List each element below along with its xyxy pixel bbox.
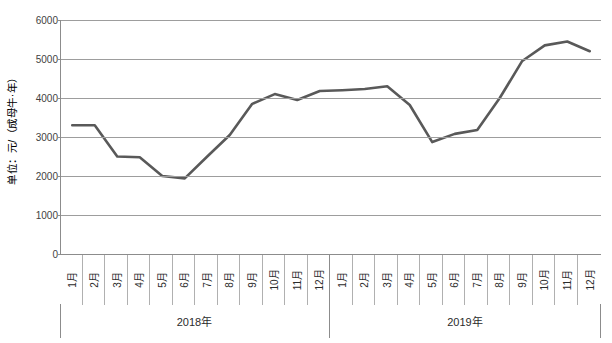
- y-axis-tick-labels: 0100020003000400050006000: [14, 0, 58, 256]
- y-tickmark-3000: [57, 137, 61, 138]
- x-axis-month-label: 9月: [513, 272, 528, 288]
- line-chart: 单位：元/（成母牛·年） 0100020003000400050006000 1…: [0, 0, 612, 343]
- series-polyline: [72, 41, 590, 178]
- gridline-6000: [61, 20, 601, 21]
- x-axis-month-label: 5月: [153, 272, 168, 288]
- x-axis-month-label: 9月: [243, 272, 258, 288]
- x-axis-month-cell: 8月: [218, 255, 241, 305]
- x-axis-month-label: 8月: [221, 272, 236, 288]
- x-axis-month-cell: 11月: [285, 255, 308, 305]
- x-axis-month-label: 7月: [198, 272, 213, 288]
- x-axis-month-cell: 7月: [195, 255, 218, 305]
- x-axis-year-label: 2019年: [330, 304, 600, 338]
- x-axis-month-label: 6月: [446, 272, 461, 288]
- x-axis-month-cell: 2月: [83, 255, 106, 305]
- x-axis-month-cell: 1月: [330, 255, 353, 305]
- x-axis-month-cell: 6月: [173, 255, 196, 305]
- y-tickmark-5000: [57, 59, 61, 60]
- x-axis-month-cell: 4月: [128, 255, 151, 305]
- x-axis-year-labels: 2018年2019年: [60, 304, 600, 338]
- y-tick-label-2000: 2000: [18, 171, 58, 182]
- x-axis-month-cell: 4月: [398, 255, 421, 305]
- x-axis-month-label: 3月: [378, 272, 393, 288]
- y-tick-label-0: 0: [18, 249, 58, 260]
- gridline-3000: [61, 137, 601, 138]
- x-axis-month-cell: 3月: [375, 255, 398, 305]
- plot-area: [60, 20, 601, 254]
- x-axis-month-cell: 6月: [443, 255, 466, 305]
- gridline-2000: [61, 176, 601, 177]
- y-tick-label-6000: 6000: [18, 15, 58, 26]
- x-axis-month-label: 7月: [468, 272, 483, 288]
- y-tick-label-4000: 4000: [18, 93, 58, 104]
- y-tickmark-4000: [57, 98, 61, 99]
- x-axis-month-cell: 5月: [150, 255, 173, 305]
- gridline-1000: [61, 215, 601, 216]
- gridline-5000: [61, 59, 601, 60]
- x-axis-month-cell: 11月: [555, 255, 578, 305]
- x-axis-month-label: 10月: [536, 269, 551, 290]
- x-axis-month-label: 1月: [333, 272, 348, 288]
- x-axis-month-cell: 9月: [510, 255, 533, 305]
- x-axis-month-cell: 2月: [353, 255, 376, 305]
- x-axis-month-cell: 1月: [60, 255, 83, 305]
- x-axis-month-label: 11月: [288, 270, 303, 290]
- x-axis-month-labels: 1月2月3月4月5月6月7月8月9月10月11月12月1月2月3月4月5月6月7…: [60, 254, 600, 305]
- x-axis-month-cell: 8月: [488, 255, 511, 305]
- x-axis-month-label: 11月: [558, 270, 573, 290]
- x-axis-month-label: 1月: [63, 272, 78, 288]
- x-axis-month-label: 6月: [176, 272, 191, 288]
- x-axis-month-label: 2月: [356, 272, 371, 288]
- y-tick-label-1000: 1000: [18, 210, 58, 221]
- y-tick-label-3000: 3000: [18, 132, 58, 143]
- x-axis-month-label: 12月: [581, 269, 596, 290]
- x-axis-month-cell: 12月: [308, 255, 331, 305]
- x-axis-year-label: 2018年: [60, 304, 330, 338]
- x-axis-month-label: 12月: [311, 269, 326, 290]
- x-axis-month-cell: 5月: [420, 255, 443, 305]
- y-tickmark-2000: [57, 176, 61, 177]
- gridline-4000: [61, 98, 601, 99]
- x-axis-month-cell: 10月: [533, 255, 556, 305]
- x-axis-month-cell: 9月: [240, 255, 263, 305]
- x-axis-month-label: 3月: [108, 272, 123, 288]
- x-axis-month-cell: 3月: [105, 255, 128, 305]
- x-axis-month-label: 8月: [491, 272, 506, 288]
- x-axis-month-label: 4月: [401, 272, 416, 288]
- x-axis-month-label: 2月: [86, 272, 101, 288]
- x-axis-month-cell: 7月: [465, 255, 488, 305]
- y-tick-label-5000: 5000: [18, 54, 58, 65]
- y-tickmark-6000: [57, 20, 61, 21]
- x-axis-month-cell: 10月: [263, 255, 286, 305]
- x-axis-month-label: 4月: [131, 272, 146, 288]
- year-band-right-edge: [600, 304, 601, 338]
- x-axis-month-label: 5月: [423, 272, 438, 288]
- x-axis-month-label: 10月: [266, 269, 281, 290]
- y-tickmark-1000: [57, 215, 61, 216]
- x-axis-month-cell: 12月: [578, 255, 601, 305]
